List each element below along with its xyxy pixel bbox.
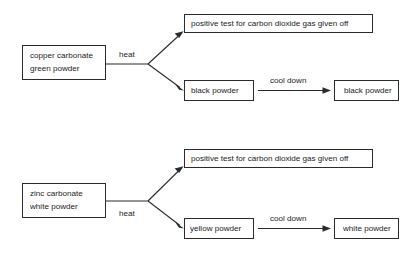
node-copper-gas-test-label: positive test for carbon dioxide gas giv… xyxy=(191,19,349,28)
node-copper-residue-label: black powder xyxy=(191,86,239,95)
node-zinc-carbonate-source-line1: zinc carbonate xyxy=(30,189,83,198)
edge-zinc-cool-down: cool down xyxy=(258,214,331,232)
edge-label-zinc-cool-down: cool down xyxy=(270,214,306,223)
flow-diagram-svg: copper carbonate green powder heat posit… xyxy=(0,0,420,259)
node-copper-cooled-label: black powder xyxy=(344,86,392,95)
edge-copper-cool-down: cool down xyxy=(258,76,331,94)
node-zinc-residue: yellow powder xyxy=(185,219,254,239)
arrowhead-copper-cool-down xyxy=(323,87,332,94)
arrowhead-copper-to-gas-test xyxy=(175,31,184,38)
arrowhead-zinc-to-gas-test xyxy=(175,166,184,173)
node-copper-carbonate-source-line1: copper carbonate xyxy=(30,51,93,60)
edge-copper-heat: heat xyxy=(106,31,185,90)
node-copper-gas-test: positive test for carbon dioxide gas giv… xyxy=(185,15,373,33)
node-copper-residue: black powder xyxy=(185,81,254,101)
node-zinc-residue-label: yellow powder xyxy=(190,224,242,233)
arrowhead-zinc-cool-down xyxy=(323,225,332,232)
edge-zinc-heat: heat xyxy=(106,166,185,228)
edge-label-copper-cool-down: cool down xyxy=(270,76,306,85)
node-zinc-carbonate-source-line2: white powder xyxy=(29,202,78,211)
edge-label-zinc-heat: heat xyxy=(119,209,136,218)
arrowhead-zinc-to-residue xyxy=(175,222,184,228)
node-zinc-carbonate-source: zinc carbonate white powder xyxy=(23,184,106,218)
node-zinc-gas-test: positive test for carbon dioxide gas giv… xyxy=(185,150,373,168)
node-zinc-gas-test-label: positive test for carbon dioxide gas giv… xyxy=(191,154,349,163)
flow-diagram-canvas: copper carbonate green powder heat posit… xyxy=(0,0,420,259)
node-copper-carbonate-source-line2: green powder xyxy=(30,64,80,73)
edge-label-copper-heat: heat xyxy=(119,50,136,59)
node-zinc-cooled: white powder xyxy=(335,219,399,239)
node-zinc-cooled-label: white powder xyxy=(342,224,391,233)
node-copper-carbonate-source: copper carbonate green powder xyxy=(23,46,106,80)
node-copper-cooled: black powder xyxy=(335,81,399,101)
